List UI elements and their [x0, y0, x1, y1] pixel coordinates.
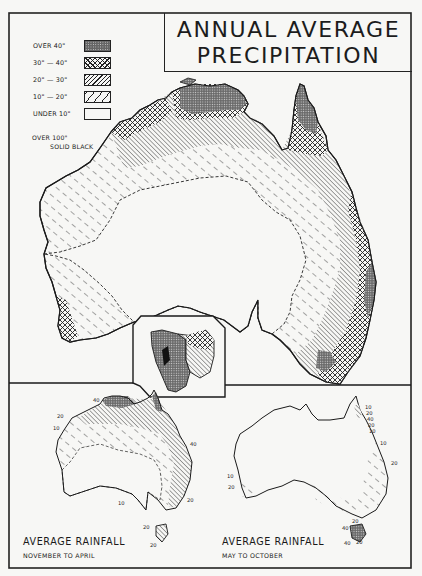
may-oct-dashed-east [358, 442, 388, 510]
isohyet-label: 20 [356, 539, 363, 545]
legend-label: 30" — 40" [33, 57, 67, 69]
isohyet-label: 10 [53, 425, 60, 431]
legend-item-10-20: 10" — 20" [33, 91, 148, 103]
legend-note-line-1: OVER 100" [32, 134, 68, 141]
isohyet-label: 20 [143, 524, 150, 530]
isohyet-label: 20 [228, 484, 235, 490]
isohyet-label: 10 [118, 500, 125, 506]
precipitation-map [0, 0, 422, 576]
isohyet-label: 20 [187, 497, 194, 503]
isohyet-label: 20 [391, 460, 398, 466]
isohyet-label: 20 [57, 413, 64, 419]
panel-1-subtitle: NOVEMBER TO APRIL [23, 552, 95, 559]
isohyet-label: 20 [150, 542, 157, 548]
blank-swatch-icon [84, 108, 111, 120]
isohyet-label: 10 [369, 428, 376, 434]
diagonal-swatch-icon [84, 74, 111, 86]
legend-label: 20" — 30" [33, 74, 67, 86]
legend-item-20-30: 20" — 30" [33, 74, 148, 86]
panel-2-subtitle: MAY TO OCTOBER [222, 552, 283, 559]
isohyet-label: 10 [227, 473, 234, 479]
legend-item-over-40: OVER 40" [33, 40, 148, 52]
legend-label: UNDER 10" [33, 108, 71, 120]
tasmania-inset [133, 316, 225, 397]
isohyet-label: 20 [352, 518, 359, 524]
panel-2-title: AVERAGE RAINFALL [222, 536, 324, 547]
panel-1-title: AVERAGE RAINFALL [23, 536, 125, 547]
isohyet-label: 40 [190, 441, 197, 447]
may-oct-cape-york-shaded [354, 404, 362, 420]
fine-dots-swatch-icon [84, 40, 111, 52]
legend-item-under-10: UNDER 10" [33, 108, 148, 120]
map-may-october [234, 396, 388, 542]
title-box: ANNUAL AVERAGE PRECIPITATION [164, 13, 412, 72]
map-november-april [56, 390, 192, 542]
title-line-1: ANNUAL AVERAGE [165, 17, 412, 43]
isohyet-label: 10 [380, 440, 387, 446]
may-oct-dashed-south [310, 484, 366, 514]
legend-item-30-40: 30" — 40" [33, 57, 148, 69]
crosshatch-swatch-icon [84, 57, 111, 69]
nov-apr-tasmania [156, 524, 168, 542]
legend-note-line-2: SOLID BLACK [50, 143, 93, 150]
title-line-2: PRECIPITATION [165, 43, 412, 69]
dashed-diagonal-swatch-icon [84, 91, 111, 103]
legend-label: OVER 40" [33, 40, 65, 52]
isohyet-label: 40 [342, 525, 349, 531]
may-oct-dashed-southwest [240, 480, 262, 498]
isohyet-label: 40 [93, 397, 100, 403]
legend-label: 10" — 20" [33, 91, 67, 103]
isohyet-label: 40 [344, 540, 351, 546]
